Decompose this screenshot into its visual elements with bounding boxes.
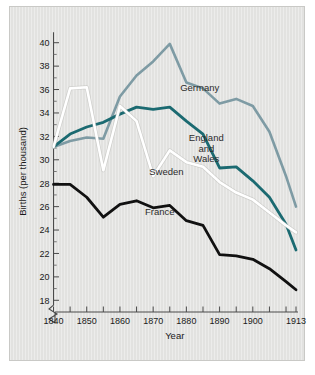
x-tick-label: 1850 [77,316,97,326]
x-tick-label: 1870 [143,316,163,326]
y-tick-label: 24 [39,225,49,235]
y-tick-label: 38 [39,61,49,71]
x-tick-label: 1890 [210,316,230,326]
y-tick-label: 34 [39,108,49,118]
y-tick-label: 26 [39,202,49,212]
series-label-england-and-wales: England [189,132,224,143]
y-tick-label: 36 [39,85,49,95]
series-label-england-and-wales: Wales [193,153,219,164]
y-tick-label: 32 [39,132,49,142]
x-tick-label: 1860 [110,316,130,326]
y-tick-label: 40 [39,38,49,48]
y-tick-label: 20 [39,272,49,282]
x-tick-label: 1900 [243,316,263,326]
y-tick-label: 28 [39,179,49,189]
series-line-france [54,184,297,289]
series-line-england-and-wales [54,107,297,250]
x-axis-title: Year [165,330,184,341]
y-tick-label: 30 [39,155,49,165]
series-label-france: France [145,206,175,217]
x-tick-label: 1913 [286,316,306,326]
y-axis-title: Births (per thousand) [17,127,28,216]
x-tick-label: 1880 [176,316,196,326]
y-tick-label: 18 [39,296,49,306]
series-label-england-and-wales: and [198,143,214,154]
figure-container: 1820222426283032343638401840185018601870… [0,0,315,375]
birth-rate-line-chart: 1820222426283032343638401840185018601870… [0,0,315,375]
series-label-sweden: Sweden [149,166,183,177]
y-tick-label: 22 [39,249,49,259]
x-tick-label: 1840 [43,316,63,326]
series-label-germany: Germany [180,82,219,93]
